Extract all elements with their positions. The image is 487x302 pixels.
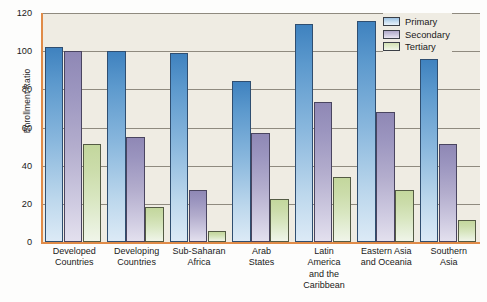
y-tick-label-120: 120 [17,8,32,18]
bar-primary [357,21,376,242]
bar-tertiary [333,177,352,242]
x-axis-category-labels: DevelopedCountriesDevelopingCountriesSub… [43,246,478,300]
x-axis-label: SouthernAsia [412,246,486,269]
bar-secondary [64,51,83,242]
bar-secondary [126,137,145,242]
legend-label-tertiary: Tertiary [405,41,436,52]
bar-tertiary [270,199,289,242]
y-tick-label-20: 20 [22,199,32,209]
bar-primary [45,47,64,242]
legend-label-primary: Primary [405,16,437,27]
bar-group [168,13,230,242]
bar-secondary [189,190,208,242]
bar-primary [107,51,126,242]
y-axis-tick-labels: 020406080100120 [0,13,36,242]
bar-group [43,13,105,242]
y-tick-label-80: 80 [22,84,32,94]
x-axis-label-line: Caribbean [287,280,361,291]
bar-group [293,13,355,242]
y-tick-label-0: 0 [27,237,32,247]
bar-tertiary [83,144,102,242]
legend-item-primary: Primary [383,16,450,27]
bar-primary [232,81,251,242]
legend-swatch-primary-icon [383,17,400,26]
bar-group [230,13,292,242]
y-tick-label-60: 60 [22,123,32,133]
enrollment-ratio-bar-chart: Enrollment Ratio 020406080100120 Primary… [0,0,487,302]
y-tick-label-40: 40 [22,161,32,171]
bar-secondary [314,102,333,242]
legend-item-tertiary: Tertiary [383,41,450,52]
bar-tertiary [395,190,414,242]
legend-swatch-tertiary-icon [383,42,400,51]
bar-primary [170,53,189,242]
x-axis-label-line: Asia [412,257,486,268]
x-axis-label-line: Southern [412,246,486,257]
x-axis-label-line: and the [287,269,361,280]
legend-item-secondary: Secondary [383,28,450,39]
y-tick-label-100: 100 [17,46,32,56]
bar-secondary [376,112,395,242]
bar-secondary [251,133,270,242]
bar-secondary [439,144,458,242]
bar-tertiary [145,207,164,242]
legend-label-secondary: Secondary [405,29,450,40]
legend-swatch-secondary-icon [383,30,400,39]
bar-tertiary [458,220,477,242]
bar-primary [420,59,439,242]
chart-legend: Primary Secondary Tertiary [383,13,452,56]
bar-primary [295,24,314,242]
bar-tertiary [208,231,227,242]
bar-group [105,13,167,242]
